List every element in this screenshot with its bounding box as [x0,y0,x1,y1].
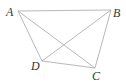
segment-ab [18,10,111,11]
quadrilateral-diagram: A B C D [0,0,126,82]
label-c: C [92,69,101,82]
labels: A B C D [5,5,121,82]
label-a: A [5,5,14,19]
segment-bd [42,10,111,61]
segment-ad [18,11,42,61]
segment-bc [95,10,111,68]
label-b: B [113,6,121,20]
segment-ac [18,11,95,68]
label-d: D [30,59,40,73]
